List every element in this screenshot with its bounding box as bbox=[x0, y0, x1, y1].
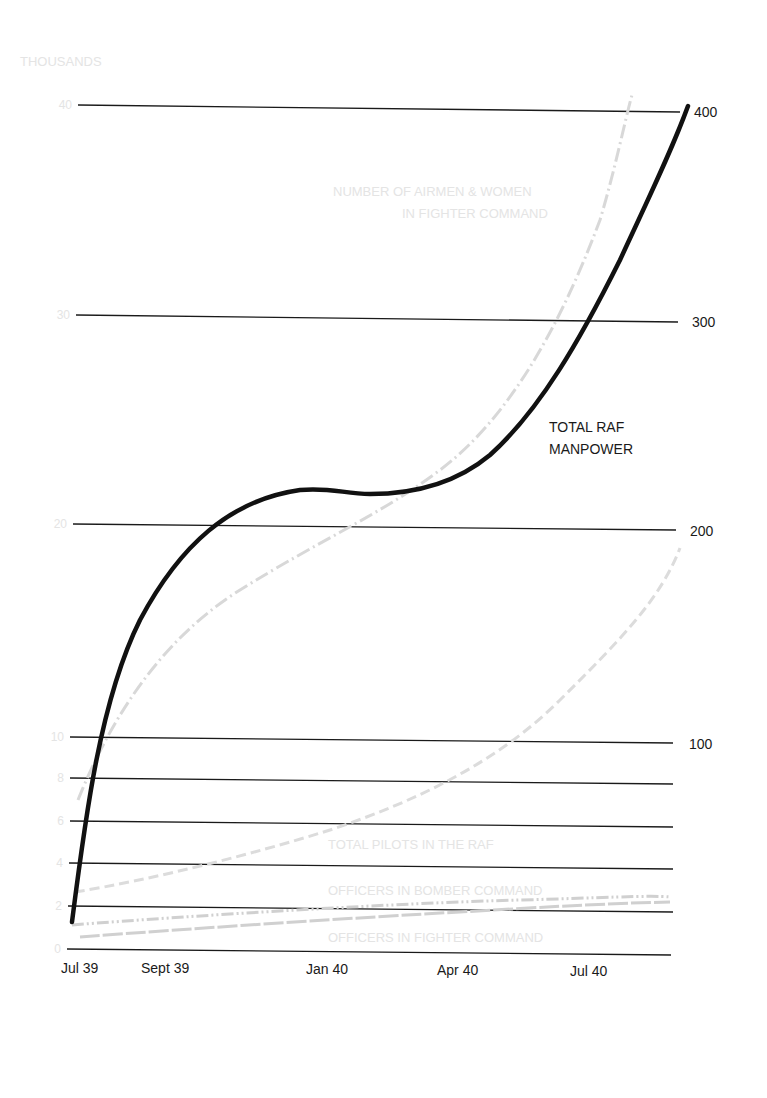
label-bomber-officers: OFFICERS IN BOMBER COMMAND bbox=[328, 883, 543, 898]
unit-label: THOUSANDS bbox=[20, 54, 102, 69]
label-fighter-officers: OFFICERS IN FIGHTER COMMAND bbox=[328, 930, 543, 945]
gridline-2 bbox=[68, 906, 673, 912]
left-tick-30: 30 bbox=[57, 308, 71, 322]
right-tick-400: 400 bbox=[694, 104, 718, 120]
raf-manpower-chart: THOUSANDS 40 30 20 10 8 6 4 2 0 400 300 … bbox=[0, 0, 767, 1098]
x-tick-sep39: Sept 39 bbox=[141, 960, 189, 976]
x-tick-jul39: Jul 39 bbox=[61, 960, 99, 976]
gridline-0 bbox=[67, 949, 671, 955]
left-tick-2: 2 bbox=[55, 899, 62, 913]
left-tick-20: 20 bbox=[54, 517, 68, 531]
gridline-40 bbox=[78, 105, 680, 112]
x-tick-apr40: Apr 40 bbox=[437, 962, 478, 978]
label-total-pilots: TOTAL PILOTS IN THE RAF bbox=[328, 837, 494, 852]
left-tick-8: 8 bbox=[57, 771, 64, 785]
label-total-raf-line1: TOTAL RAF bbox=[549, 419, 624, 435]
left-tick-40: 40 bbox=[59, 98, 73, 112]
right-tick-300: 300 bbox=[692, 314, 716, 330]
label-fighter-airmen-line1: NUMBER OF AIRMEN & WOMEN bbox=[333, 184, 532, 199]
left-tick-4: 4 bbox=[56, 856, 63, 870]
label-fighter-airmen-line2: IN FIGHTER COMMAND bbox=[402, 206, 548, 221]
gridline-4 bbox=[69, 863, 673, 869]
gridline-20 bbox=[73, 524, 676, 530]
gridlines bbox=[67, 105, 680, 955]
label-total-raf-line2: MANPOWER bbox=[549, 441, 633, 457]
left-tick-0: 0 bbox=[54, 942, 61, 956]
x-tick-jul40: Jul 40 bbox=[570, 963, 608, 979]
gridline-6 bbox=[70, 821, 673, 827]
right-tick-200: 200 bbox=[690, 523, 714, 539]
left-tick-10: 10 bbox=[51, 730, 65, 744]
right-tick-100: 100 bbox=[689, 736, 713, 752]
gridline-10 bbox=[70, 737, 673, 743]
x-tick-jan40: Jan 40 bbox=[306, 961, 348, 977]
gridline-8 bbox=[70, 778, 673, 784]
left-tick-6: 6 bbox=[57, 814, 64, 828]
